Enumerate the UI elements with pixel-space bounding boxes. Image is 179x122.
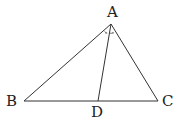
label-b: B [6,92,17,110]
segment-ad [98,24,111,101]
label-d: D [91,103,103,121]
angle-dot-dac [112,32,114,34]
label-c: C [162,92,173,110]
segment-ab [24,24,111,101]
angle-dot-bad [105,32,107,34]
segment-ac [111,24,158,101]
label-a: A [106,3,118,21]
triangle-diagram: A B C D [0,0,179,122]
